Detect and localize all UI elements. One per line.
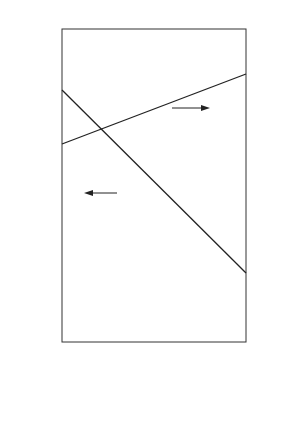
chart bbox=[0, 0, 298, 425]
plot-frame bbox=[62, 29, 246, 342]
chip-size-line bbox=[62, 74, 246, 144]
right-arrow-icon bbox=[172, 105, 210, 111]
cell-size-line bbox=[62, 90, 246, 273]
left-arrow-icon bbox=[84, 190, 117, 196]
